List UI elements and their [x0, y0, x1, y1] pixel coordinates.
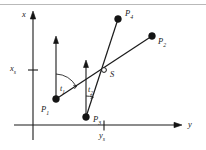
y-axis-arrowhead: [174, 122, 182, 127]
y-s-tick-label: ys: [99, 131, 105, 142]
point-label-p4: P4: [125, 9, 133, 20]
point-label-p3: P3: [93, 115, 101, 126]
point-label-p2: P2: [158, 37, 166, 48]
point-label-p4-sub: 4: [130, 14, 133, 20]
point-label-s-main: S: [110, 69, 114, 79]
angle-arc-t1: [56, 74, 76, 86]
point-label-s: S: [110, 70, 114, 79]
point-marker-p1[interactable]: [53, 96, 60, 103]
y-axis-label: y: [188, 120, 192, 129]
x-axis-label: x: [22, 10, 26, 19]
x-axis-label-text: x: [22, 9, 26, 19]
figure-root: x y xs ys P1 P2 P3 P4 S t1 t2: [0, 0, 206, 150]
point-marker-p2[interactable]: [149, 33, 156, 40]
diagram-canvas: [0, 0, 206, 150]
point-marker-p3[interactable]: [83, 114, 90, 121]
north-reference-arrowhead-p1: [54, 36, 59, 44]
angle-label-t1: t1: [60, 85, 65, 95]
x-s-tick-label: xs: [10, 64, 16, 75]
point-marker-s[interactable]: [102, 68, 107, 73]
point-label-p2-sub: 2: [163, 42, 166, 48]
angle-label-t2-sub: 2: [90, 90, 93, 96]
x-s-tick-label-sub: s: [14, 69, 16, 75]
point-marker-p4[interactable]: [115, 16, 122, 23]
north-reference-arrowhead-p3: [84, 60, 89, 68]
point-label-p1: P1: [41, 105, 49, 116]
angle-label-t1-sub: 1: [62, 89, 65, 95]
point-label-p1-sub: 1: [46, 110, 49, 116]
point-label-p3-sub: 3: [98, 120, 101, 126]
x-axis-arrowhead: [30, 11, 35, 19]
y-axis-label-text: y: [188, 119, 192, 129]
angle-label-t2: t2: [88, 86, 93, 96]
y-s-tick-label-sub: s: [103, 136, 105, 142]
